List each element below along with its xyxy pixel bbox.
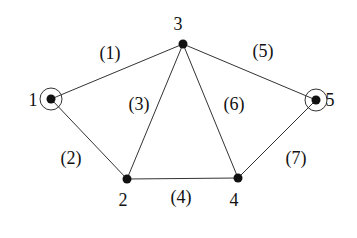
edge-label-6: (6) <box>224 94 245 115</box>
node-2 <box>123 175 132 184</box>
edge-label-7: (7) <box>286 148 307 169</box>
node-1 <box>47 95 56 104</box>
edge-label-1: (1) <box>100 43 121 64</box>
node-label-4: 4 <box>230 190 239 210</box>
rings-group <box>40 88 327 111</box>
edge-label-2: (2) <box>61 148 82 169</box>
edge-label-5: (5) <box>253 41 274 62</box>
node-label-1: 1 <box>29 90 38 110</box>
edge-4 <box>127 178 238 179</box>
node-label-2: 2 <box>119 190 128 210</box>
edges-group <box>51 44 316 179</box>
edge-label-3: (3) <box>129 94 150 115</box>
node-4 <box>234 174 243 183</box>
edge-labels-group: (1)(2)(3)(4)(5)(6)(7) <box>61 41 307 208</box>
edge-label-4: (4) <box>171 187 192 208</box>
node-label-3: 3 <box>174 14 183 34</box>
nodes-group <box>47 40 321 184</box>
node-3 <box>179 40 188 49</box>
node-label-5: 5 <box>326 90 335 110</box>
graph-diagram: (1)(2)(3)(4)(5)(6)(7) 12345 <box>0 0 357 238</box>
node-5 <box>312 96 321 105</box>
